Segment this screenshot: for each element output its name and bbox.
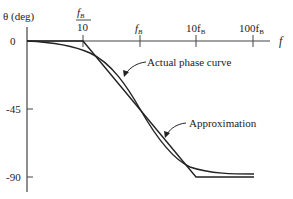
actual-phase-label: Actual phase curve bbox=[147, 56, 231, 68]
y-tick-label-0: 0 bbox=[10, 35, 16, 47]
approximation-label: Approximation bbox=[189, 117, 257, 129]
phase-plot: θ (deg) 0 -45 -90 fB 10 fB 10fB 100fB f … bbox=[0, 0, 293, 199]
x-tick-label-10fb: 10fB bbox=[186, 22, 206, 36]
y-tick-label-45: -45 bbox=[6, 103, 21, 115]
svg-text:fB: fB bbox=[77, 6, 85, 20]
x-tick-label-fb10: fB 10 bbox=[76, 6, 91, 33]
x-tick-label-fb: fB bbox=[135, 22, 143, 36]
chart-svg: θ (deg) 0 -45 -90 fB 10 fB 10fB 100fB f … bbox=[0, 0, 293, 199]
actual-callout-arrow bbox=[126, 62, 146, 73]
x-axis-label: f bbox=[279, 34, 284, 48]
y-tick-label-90: -90 bbox=[6, 171, 21, 183]
y-axis-label: θ (deg) bbox=[3, 10, 35, 23]
arrowhead-icon bbox=[164, 131, 170, 138]
svg-text:10: 10 bbox=[77, 21, 89, 33]
approx-callout-arrow bbox=[167, 123, 186, 134]
x-tick-label-100fb: 100fB bbox=[239, 22, 264, 36]
